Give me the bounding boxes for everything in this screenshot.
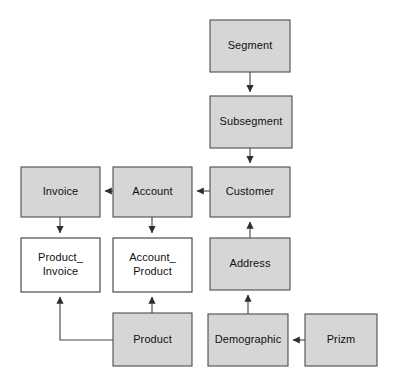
node-label-line: Product_ [38, 251, 84, 263]
node-label-account: Account [132, 185, 172, 197]
nodes-layer: SegmentSubsegmentCustomerAccountInvoiceP… [21, 20, 377, 366]
node-label-line: Segment [228, 39, 273, 51]
er-diagram-canvas: SegmentSubsegmentCustomerAccountInvoiceP… [0, 0, 400, 388]
node-label-line: Address [229, 257, 270, 269]
node-label-line: Demographic [215, 333, 282, 345]
node-label-customer: Customer [226, 185, 275, 197]
node-label-line: Account_ [129, 251, 176, 263]
node-label-product: Product [133, 332, 172, 344]
node-label-line: Invoice [43, 185, 79, 197]
node-product_invoice[interactable]: Product_Invoice [21, 238, 100, 292]
node-subsegment[interactable]: Subsegment [210, 96, 292, 148]
node-label-line: Invoice [43, 265, 79, 277]
node-label-prizm: Prizm [327, 333, 356, 345]
node-customer[interactable]: Customer [210, 167, 290, 217]
node-segment[interactable]: Segment [210, 20, 290, 72]
er-diagram-svg: SegmentSubsegmentCustomerAccountInvoiceP… [0, 0, 400, 388]
node-invoice[interactable]: Invoice [21, 167, 100, 217]
node-label-subsegment: Subsegment [220, 115, 283, 127]
node-label-address: Address [229, 257, 270, 269]
node-label-line: Customer [226, 185, 275, 197]
node-label-line: Subsegment [220, 115, 283, 127]
node-label-line: Account [132, 185, 172, 197]
node-label-invoice: Invoice [43, 185, 79, 197]
node-label-line: Product [133, 265, 172, 277]
node-prizm[interactable]: Prizm [305, 314, 377, 366]
edge-product-to-product-invoice [60, 297, 113, 340]
node-address[interactable]: Address [210, 238, 290, 290]
node-label-line: Product [133, 332, 172, 344]
node-account_product[interactable]: Account_Product [113, 238, 192, 292]
node-label-line: Prizm [327, 333, 356, 345]
node-demographic[interactable]: Demographic [208, 314, 288, 366]
node-account[interactable]: Account [113, 167, 192, 217]
node-label-demographic: Demographic [215, 333, 282, 345]
node-product[interactable]: Product [113, 313, 192, 366]
node-label-segment: Segment [228, 39, 273, 51]
